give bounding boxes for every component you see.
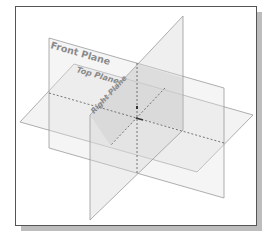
planes-diagram: Front Plane Top Plane Right Plane: [0, 0, 271, 243]
origin-marker: [136, 106, 138, 109]
